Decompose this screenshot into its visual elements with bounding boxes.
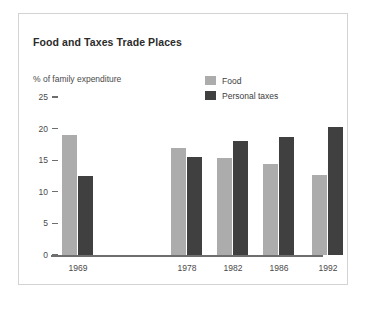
y-tick-dash xyxy=(52,223,58,224)
y-tick-dash xyxy=(52,128,58,129)
bar-food-1978 xyxy=(171,148,186,255)
bar-food-1992 xyxy=(312,175,327,255)
y-tick-label: 0 xyxy=(43,250,48,260)
y-tick-dash xyxy=(52,254,58,255)
x-label-1969: 1969 xyxy=(53,263,103,273)
y-tick-label: 10 xyxy=(39,187,48,197)
legend-item-food: Food xyxy=(205,74,278,87)
y-axis-label: % of family expenditure xyxy=(33,74,121,84)
x-label-1986: 1986 xyxy=(254,263,304,273)
y-tick-dash xyxy=(52,96,58,97)
x-label-1992: 1992 xyxy=(303,263,353,273)
bar-personal-taxes-1969 xyxy=(78,176,93,255)
plot-area: 2520151050 19691978198219861992 xyxy=(62,92,337,256)
y-tick-label: 25 xyxy=(39,92,48,102)
y-tick-25: 25 xyxy=(26,92,58,102)
y-tick-5: 5 xyxy=(26,218,58,228)
legend-label-food: Food xyxy=(222,76,241,86)
legend-swatch-food xyxy=(205,76,216,85)
y-tick-20: 20 xyxy=(26,124,58,134)
bar-food-1982 xyxy=(217,158,232,255)
x-label-1982: 1982 xyxy=(208,263,258,273)
bar-personal-taxes-1992 xyxy=(328,127,343,255)
x-axis-line xyxy=(51,255,323,257)
y-tick-dash xyxy=(52,160,58,161)
y-tick-label: 5 xyxy=(43,218,48,228)
y-tick-10: 10 xyxy=(26,187,58,197)
chart-title: Food and Taxes Trade Places xyxy=(33,36,182,48)
bar-food-1969 xyxy=(62,135,77,255)
x-label-1978: 1978 xyxy=(162,263,212,273)
bar-personal-taxes-1982 xyxy=(233,141,248,255)
chart-figure: Food and Taxes Trade Places % of family … xyxy=(0,0,367,310)
y-tick-label: 15 xyxy=(39,155,48,165)
y-tick-15: 15 xyxy=(26,155,58,165)
y-tick-0: 0 xyxy=(26,250,58,260)
bar-personal-taxes-1986 xyxy=(279,137,294,255)
bar-personal-taxes-1978 xyxy=(187,157,202,255)
bar-food-1986 xyxy=(263,164,278,255)
y-tick-dash xyxy=(52,191,58,192)
y-tick-label: 20 xyxy=(39,124,48,134)
